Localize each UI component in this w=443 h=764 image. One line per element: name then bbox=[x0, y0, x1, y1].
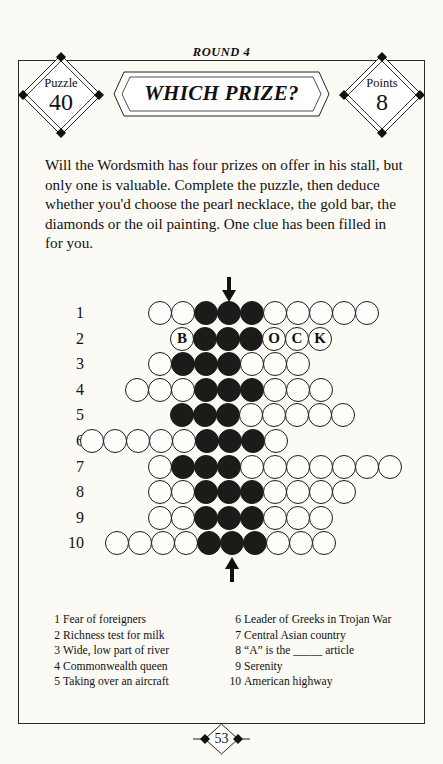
grid-cell-filled[interactable] bbox=[197, 531, 221, 555]
grid-cell-filled[interactable] bbox=[217, 301, 241, 325]
grid-cell-filled[interactable] bbox=[220, 531, 244, 555]
grid-cell-empty[interactable] bbox=[266, 531, 290, 555]
grid-cell-filled[interactable] bbox=[240, 301, 264, 325]
grid-cell-empty[interactable] bbox=[332, 301, 356, 325]
grid-cell-filled[interactable] bbox=[240, 378, 264, 402]
grid-cell-empty[interactable] bbox=[263, 301, 287, 325]
grid-cell-filled[interactable] bbox=[240, 506, 264, 530]
grid-cell-filled[interactable] bbox=[218, 429, 242, 453]
grid-cell-filled[interactable] bbox=[217, 352, 241, 376]
grid-cell-filled[interactable] bbox=[241, 429, 265, 453]
grid-cell-empty[interactable] bbox=[331, 403, 355, 427]
grid-cell-filled[interactable] bbox=[194, 506, 218, 530]
grid-cell-empty[interactable] bbox=[289, 531, 313, 555]
grid-cell-empty[interactable] bbox=[355, 455, 379, 479]
grid-cell-empty[interactable] bbox=[332, 480, 356, 504]
grid-cell-empty[interactable] bbox=[309, 506, 333, 530]
grid-cell-empty[interactable] bbox=[308, 403, 332, 427]
grid-cell-filled[interactable] bbox=[217, 506, 241, 530]
grid-cell-filled[interactable] bbox=[239, 327, 263, 351]
grid-cell-empty[interactable] bbox=[151, 531, 175, 555]
grid-cell-empty[interactable] bbox=[105, 531, 129, 555]
grid-cell-empty[interactable] bbox=[264, 429, 288, 453]
grid-cell-filled[interactable] bbox=[171, 352, 195, 376]
grid-cell-empty[interactable] bbox=[286, 301, 310, 325]
puzzle-instructions: Will the Wordsmith has four prizes on of… bbox=[45, 155, 405, 253]
clue-number: 3 bbox=[46, 643, 60, 659]
grid-cell-empty[interactable] bbox=[148, 506, 172, 530]
grid-cell-empty[interactable] bbox=[128, 531, 152, 555]
grid-cell-empty[interactable] bbox=[286, 506, 310, 530]
grid-cell-filled[interactable] bbox=[194, 378, 218, 402]
grid-cell-empty[interactable] bbox=[262, 403, 286, 427]
grid-cell-empty[interactable] bbox=[171, 506, 195, 530]
grid-cell-filled[interactable] bbox=[217, 455, 241, 479]
grid-cell-empty[interactable] bbox=[309, 480, 333, 504]
arrow-down-indicator bbox=[221, 277, 237, 303]
grid-cell-filled[interactable] bbox=[194, 352, 218, 376]
grid-cell-filled[interactable] bbox=[243, 531, 267, 555]
grid-cell-empty[interactable] bbox=[174, 531, 198, 555]
grid-cell-letter-b[interactable]: B bbox=[170, 327, 194, 351]
grid-cell-filled[interactable] bbox=[216, 403, 240, 427]
grid-cell-empty[interactable] bbox=[312, 531, 336, 555]
grid-cell-empty[interactable] bbox=[80, 429, 104, 453]
row-number-8: 8 bbox=[58, 484, 84, 500]
grid-cell-filled[interactable] bbox=[193, 327, 217, 351]
grid-cell-empty[interactable] bbox=[263, 352, 287, 376]
clue-number: 1 bbox=[46, 612, 60, 628]
grid-cell-empty[interactable] bbox=[286, 455, 310, 479]
grid-cell-empty[interactable] bbox=[355, 301, 379, 325]
grid-cell-empty[interactable] bbox=[263, 378, 287, 402]
grid-cell-filled[interactable] bbox=[171, 455, 195, 479]
grid-cell-empty[interactable] bbox=[286, 480, 310, 504]
grid-cell-empty[interactable] bbox=[239, 403, 263, 427]
grid-cell-empty[interactable] bbox=[309, 455, 333, 479]
grid-cell-filled[interactable] bbox=[170, 403, 194, 427]
grid-cell-filled[interactable] bbox=[195, 429, 219, 453]
grid-cell-empty[interactable] bbox=[309, 378, 333, 402]
grid-cell-empty[interactable] bbox=[285, 403, 309, 427]
grid-cell-empty[interactable] bbox=[148, 301, 172, 325]
grid-cell-letter-k[interactable]: K bbox=[308, 327, 332, 351]
grid-cell-filled[interactable] bbox=[194, 480, 218, 504]
grid-cell-empty[interactable] bbox=[332, 455, 356, 479]
honeycomb-grid[interactable]: 12BOCK345678910 bbox=[0, 295, 443, 585]
grid-cell-filled[interactable] bbox=[194, 301, 218, 325]
grid-cell-filled[interactable] bbox=[216, 327, 240, 351]
grid-cell-empty[interactable] bbox=[148, 480, 172, 504]
grid-cell-empty[interactable] bbox=[171, 378, 195, 402]
grid-cell-empty[interactable] bbox=[171, 301, 195, 325]
grid-cell-empty[interactable] bbox=[148, 378, 172, 402]
grid-cell-filled[interactable] bbox=[240, 480, 264, 504]
clue-item-1: 1Fear of foreigners bbox=[46, 612, 221, 628]
grid-cell-filled[interactable] bbox=[217, 378, 241, 402]
grid-cell-letter-o[interactable]: O bbox=[262, 327, 286, 351]
grid-cell-empty[interactable] bbox=[378, 455, 402, 479]
grid-cell-empty[interactable] bbox=[148, 455, 172, 479]
grid-cell-filled[interactable] bbox=[193, 403, 217, 427]
grid-cell-letter-c[interactable]: C bbox=[285, 327, 309, 351]
grid-cell-empty[interactable] bbox=[125, 378, 149, 402]
grid-cell-empty[interactable] bbox=[263, 455, 287, 479]
grid-cell-empty[interactable] bbox=[263, 480, 287, 504]
grid-cell-empty[interactable] bbox=[286, 378, 310, 402]
row-number-9: 9 bbox=[58, 510, 84, 526]
grid-cell-empty[interactable] bbox=[263, 506, 287, 530]
clue-number: 5 bbox=[46, 674, 60, 690]
grid-cell-empty[interactable] bbox=[103, 429, 127, 453]
clue-text: “A” is the _____ article bbox=[244, 644, 354, 657]
grid-cell-empty[interactable] bbox=[240, 455, 264, 479]
grid-cell-empty[interactable] bbox=[126, 429, 150, 453]
grid-cell-empty[interactable] bbox=[171, 480, 195, 504]
grid-cell-empty[interactable] bbox=[240, 352, 264, 376]
grid-cell-empty[interactable] bbox=[148, 352, 172, 376]
grid-cell-empty[interactable] bbox=[286, 352, 310, 376]
puzzle-badge-label: Puzzle bbox=[18, 77, 104, 90]
clue-number: 9 bbox=[224, 659, 241, 675]
grid-cell-filled[interactable] bbox=[194, 455, 218, 479]
grid-cell-empty[interactable] bbox=[309, 301, 333, 325]
grid-cell-filled[interactable] bbox=[217, 480, 241, 504]
grid-cell-empty[interactable] bbox=[149, 429, 173, 453]
grid-cell-empty[interactable] bbox=[172, 429, 196, 453]
